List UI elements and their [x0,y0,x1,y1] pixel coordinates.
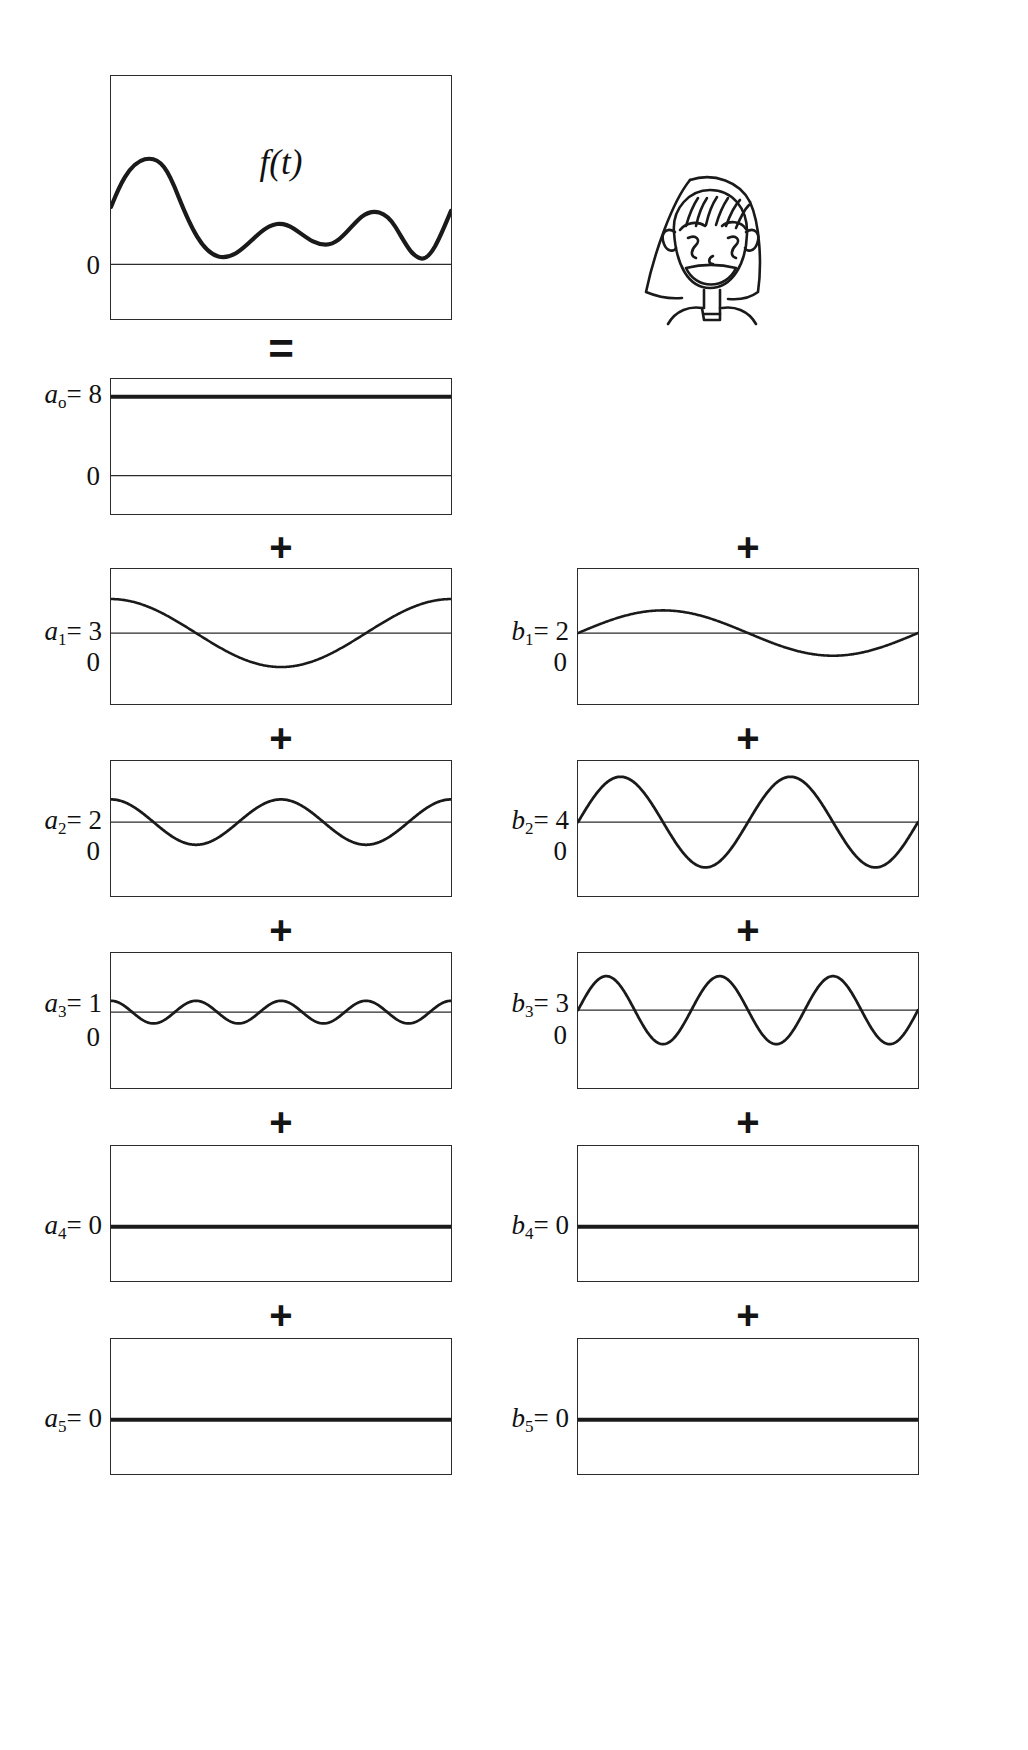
zero-label-a0: 0 [70,463,100,490]
b5-plot [578,1339,918,1474]
operator-plus-left-4: + [269,1102,292,1142]
operator-plus-left-2: + [269,718,292,758]
coef-value: 0 [89,1403,103,1433]
coef-subscript: 4 [58,1224,67,1243]
panel-a0 [110,378,452,515]
coef-label-a0: ao= 8 [40,381,102,411]
coef-subscript: 2 [58,819,67,838]
coef-subscript: 4 [525,1224,534,1243]
coef-equals: = [534,1403,549,1433]
coef-symbol: a [45,379,59,409]
zero-label-ft: 0 [70,252,100,279]
coef-value: 0 [556,1403,570,1433]
coef-label-b5: b5= 0 [507,1405,569,1435]
coef-equals: = [67,988,82,1018]
coef-label-a5: a5= 0 [40,1405,102,1435]
a3-plot [111,953,451,1088]
coef-equals: = [67,805,82,835]
coef-symbol: a [45,805,59,835]
operator-plus-left-1: + [269,527,292,567]
coef-equals: = [67,1403,82,1433]
zero-label-a1: 0 [70,649,100,676]
coef-label-a1: a1= 3 [40,618,102,648]
zero-label-b2: 0 [537,838,567,865]
coef-symbol: b [512,805,526,835]
panel-b2 [577,760,919,897]
panel-b5 [577,1338,919,1475]
panel-b4 [577,1145,919,1282]
operator-plus-right-2: + [736,718,759,758]
operator-plus-right-4: + [736,1102,759,1142]
coef-subscript: o [58,393,67,412]
coef-value: 3 [556,988,570,1018]
b3-plot [578,953,918,1088]
coef-value: 0 [89,1210,103,1240]
coef-subscript: 3 [525,1002,534,1021]
coef-value: 0 [556,1210,570,1240]
face-sketch [628,168,778,328]
coef-value: 8 [89,379,103,409]
coef-subscript: 1 [525,630,534,649]
coef-equals: = [67,379,82,409]
operator-plus-left-3: + [269,910,292,950]
zero-label-a3: 0 [70,1024,100,1051]
panel-a3 [110,952,452,1089]
coef-subscript: 3 [58,1002,67,1021]
coef-value: 4 [556,805,570,835]
coef-symbol: b [512,616,526,646]
face-doodle-icon [628,168,778,328]
coef-label-a3: a3= 1 [40,990,102,1020]
a2-plot [111,761,451,896]
operator-plus-right-5: + [736,1295,759,1335]
coef-subscript: 2 [525,819,534,838]
panel-b3 [577,952,919,1089]
zero-label-b3: 0 [537,1022,567,1049]
operator-plus-left-5: + [269,1295,292,1335]
coef-value: 3 [89,616,103,646]
coef-symbol: a [45,988,59,1018]
zero-label-a2: 0 [70,838,100,865]
operator-plus-right-3: + [736,910,759,950]
coef-symbol: a [45,616,59,646]
coef-label-a4: a4= 0 [40,1212,102,1242]
operator-plus-right-1: + [736,527,759,567]
coef-label-b3: b3= 3 [507,990,569,1020]
coef-symbol: b [512,1210,526,1240]
a5-plot [111,1339,451,1474]
coef-subscript: 1 [58,630,67,649]
coef-label-b2: b2= 4 [507,807,569,837]
coef-symbol: b [512,1403,526,1433]
panel-a2 [110,760,452,897]
b2-plot [578,761,918,896]
ft-plot [111,76,451,319]
coef-symbol: a [45,1403,59,1433]
a0-plot [111,379,451,514]
zero-label-b1: 0 [537,649,567,676]
panel-a5 [110,1338,452,1475]
coef-equals: = [534,616,549,646]
coef-label-a2: a2= 2 [40,807,102,837]
coef-symbol: b [512,988,526,1018]
panel-a4 [110,1145,452,1282]
panel-b1 [577,568,919,705]
a4-plot [111,1146,451,1281]
coef-equals: = [534,988,549,1018]
coef-label-b1: b1= 2 [507,618,569,648]
panel-ft [110,75,452,320]
coef-value: 2 [89,805,103,835]
coef-subscript: 5 [58,1417,67,1436]
coef-equals: = [534,1210,549,1240]
coef-label-b4: b4= 0 [507,1212,569,1242]
ft-label: f(t) [260,145,303,180]
coef-equals: = [67,1210,82,1240]
coef-equals: = [67,616,82,646]
coef-value: 1 [89,988,103,1018]
coef-equals: = [534,805,549,835]
a1-plot [111,569,451,704]
operator-equals: = [268,327,294,371]
panel-a1 [110,568,452,705]
b4-plot [578,1146,918,1281]
b1-plot [578,569,918,704]
coef-symbol: a [45,1210,59,1240]
coef-subscript: 5 [525,1417,534,1436]
